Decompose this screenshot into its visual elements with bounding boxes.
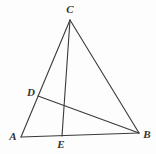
geometry-figure: C D A E B bbox=[0, 0, 156, 154]
vertex-label-e: E bbox=[57, 139, 64, 150]
vertex-label-c: C bbox=[66, 4, 73, 15]
vertex-label-d: D bbox=[27, 87, 35, 98]
vertex-label-b: B bbox=[143, 129, 150, 140]
segment-ab bbox=[21, 133, 139, 137]
vertex-label-a: A bbox=[9, 131, 16, 142]
geometry-canvas bbox=[0, 0, 156, 154]
segment-cb bbox=[70, 20, 139, 133]
segment-db bbox=[38, 96, 139, 133]
